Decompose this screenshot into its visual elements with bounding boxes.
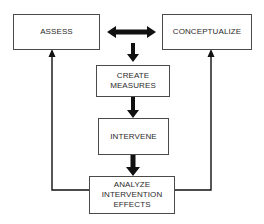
feedback-arrow-to-conceptualize — [174, 49, 215, 190]
node-create-measures: CREATE MEASURES — [96, 65, 170, 97]
down-arrow-to-create-measures — [127, 43, 139, 62]
node-assess: ASSESS — [13, 14, 100, 50]
node-assess-label: ASSESS — [40, 27, 73, 37]
feedback-arrow-to-assess — [49, 49, 90, 190]
node-intervene: INTERVENE — [98, 118, 169, 155]
down-arrow-to-analyze — [126, 155, 140, 176]
node-analyze-intervention-effects: ANALYZE INTERVENTION EFFECTS — [89, 176, 175, 214]
node-create-measures-line-2: MEASURES — [110, 81, 156, 91]
node-analyze-line-2: INTERVENTION — [102, 190, 163, 200]
node-conceptualize-label: CONCEPTUALIZE — [173, 27, 241, 37]
double-arrow-assess-conceptualize — [107, 26, 156, 38]
node-conceptualize: CONCEPTUALIZE — [162, 14, 252, 50]
node-analyze-line-1: ANALYZE — [114, 180, 151, 190]
node-intervene-label: INTERVENE — [110, 132, 157, 142]
node-analyze-line-3: EFFECTS — [113, 200, 150, 210]
node-create-measures-line-1: CREATE — [117, 71, 149, 81]
down-arrow-to-intervene — [127, 97, 139, 118]
